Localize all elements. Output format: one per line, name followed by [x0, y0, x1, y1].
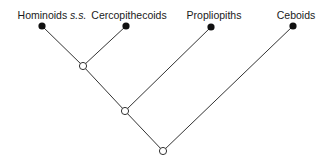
- cladogram-canvas: [0, 0, 329, 162]
- branch-hominoids: [42, 26, 83, 66]
- branch-cercopithecoids: [83, 26, 126, 66]
- branch-propliopiths: [125, 27, 211, 111]
- leaf-node-propliopiths: [207, 23, 214, 30]
- branch-n1-n2: [83, 66, 125, 111]
- taxon-qualifier: s.s.: [70, 9, 86, 21]
- branch-n2-n3: [125, 111, 163, 151]
- taxon-label-cercopithecoids: Cercopithecoids: [91, 9, 166, 21]
- taxon-label-ceboids: Ceboids: [277, 9, 316, 21]
- taxon-name: Hominoids: [18, 9, 68, 21]
- taxon-label-propliopiths: Propliopiths: [187, 9, 242, 21]
- branch-ceboids: [163, 26, 293, 151]
- leaf-node-cercopithecoids: [122, 22, 129, 29]
- leaf-node-ceboids: [289, 22, 296, 29]
- taxon-label-hominoids: Hominoids s.s.: [18, 9, 87, 21]
- internal-node-n1: [79, 62, 86, 69]
- leaf-node-hominoids: [38, 22, 45, 29]
- internal-node-n3: [159, 147, 166, 154]
- internal-node-n2: [121, 107, 128, 114]
